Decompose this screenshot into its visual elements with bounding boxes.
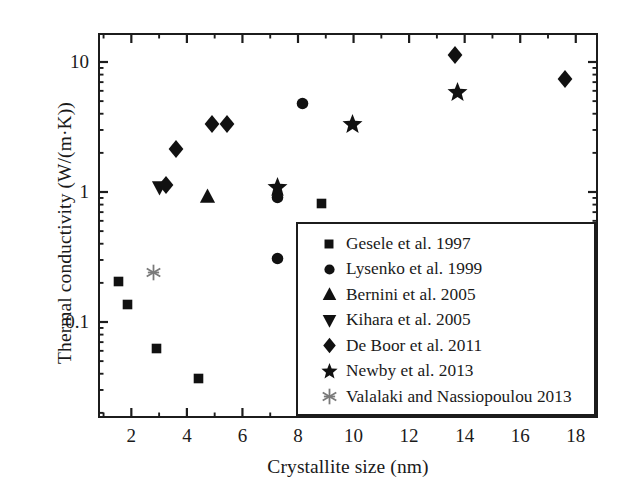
legend-marker-circle-icon (312, 262, 346, 277)
legend-item: Newby et al. 2013 (298, 359, 594, 385)
x-tick-label: 4 (182, 425, 192, 447)
legend-marker-asterisk-icon (312, 388, 346, 405)
legend-item: Valalaki and Nassiopoulou 2013 (298, 384, 594, 410)
legend-marker-triangle-up-icon (312, 286, 346, 303)
data-point-square (149, 341, 164, 356)
x-tick-label: 12 (400, 425, 419, 447)
data-point-star (342, 114, 363, 135)
legend-item: Bernini et al. 2005 (298, 282, 594, 308)
legend-marker-square-icon (312, 237, 346, 251)
data-point-circle (269, 250, 286, 267)
x-tick-label: 14 (455, 425, 474, 447)
y-tick-label: 0.1 (65, 311, 89, 333)
legend-item-label: De Boor et al. 2011 (346, 336, 482, 356)
legend-item: Gesele et al. 1997 (298, 231, 594, 257)
y-axis-title: Thermal conductivity (W/(m·K)) (54, 43, 76, 423)
x-tick-label: 6 (238, 425, 248, 447)
y-tick-label: 10 (70, 51, 89, 73)
data-point-triangle-up (198, 187, 217, 206)
data-point-diamond (445, 45, 465, 65)
legend-item-label: Newby et al. 2013 (346, 361, 474, 381)
data-point-square (314, 196, 329, 211)
data-point-square (120, 297, 135, 312)
legend-item-label: Gesele et al. 1997 (346, 234, 471, 254)
legend-item: De Boor et al. 2011 (298, 333, 594, 359)
figure-thermal-conductivity-vs-crystallite-size: Thermal conductivity (W/(m·K)) 0.1110 24… (0, 0, 630, 493)
legend-marker-diamond-icon (312, 337, 346, 354)
legend-marker-star-icon (312, 363, 346, 380)
data-point-square (191, 371, 206, 386)
data-point-square (111, 274, 126, 289)
data-point-diamond (217, 114, 237, 134)
x-axis-title: Crystallite size (nm) (98, 456, 598, 478)
data-point-diamond (166, 139, 186, 159)
data-point-diamond (555, 69, 575, 89)
x-tick-label: 16 (511, 425, 530, 447)
legend-item-label: Lysenko et al. 1999 (346, 259, 482, 279)
data-point-asterisk (145, 264, 162, 281)
legend-item-label: Kihara et al. 2005 (346, 310, 471, 330)
legend-marker-triangle-down-icon (312, 312, 346, 329)
legend-item-label: Bernini et al. 2005 (346, 285, 476, 305)
y-tick-label: 1 (80, 181, 90, 203)
x-tick-label: 18 (566, 425, 585, 447)
data-point-diamond (156, 175, 176, 195)
legend-item-label: Valalaki and Nassiopoulou 2013 (346, 387, 572, 407)
legend: Gesele et al. 1997Lysenko et al. 1999Ber… (296, 222, 596, 416)
x-tick-label: 10 (344, 425, 363, 447)
data-point-circle (294, 95, 311, 112)
x-tick-label: 8 (293, 425, 303, 447)
data-point-star (447, 82, 468, 103)
legend-item: Kihara et al. 2005 (298, 308, 594, 334)
x-tick-label: 2 (127, 425, 137, 447)
legend-item: Lysenko et al. 1999 (298, 257, 594, 283)
data-point-star (267, 177, 288, 198)
